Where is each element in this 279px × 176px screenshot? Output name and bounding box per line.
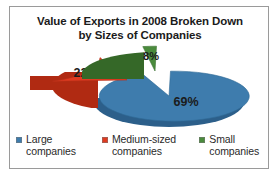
legend-label-small-line-2: companies [209,145,259,157]
legend-label-medium-sized-companies: Medium-sized companies [112,133,176,157]
legend-label-large-line-2: companies [26,145,76,157]
legend-item-large-companies[interactable]: Large companies [16,133,96,157]
pie-chart-plot-area: 69% 22% 8% [10,40,269,132]
legend-swatch-medium-icon [102,137,108,143]
chart-card: Value of Exports in 2008 Broken Down by … [9,6,269,169]
pie-slice-large-value-label: 69% [173,95,198,109]
legend-swatch-small-icon [199,137,205,143]
chart-title-line-1: Value of Exports in 2008 Broken Down [10,14,269,28]
legend-swatch-large-icon [16,137,22,143]
pie-slice-small-value-label: 8% [143,50,159,62]
legend-label-small-line-1: Small [209,133,235,145]
chart-legend: Large companies Medium-sized companies S… [10,133,269,169]
legend-label-large-line-1: Large [26,133,52,145]
legend-item-small-companies[interactable]: Small companies [199,133,264,157]
legend-label-small-companies: Small companies [209,133,259,157]
legend-item-medium-sized-companies[interactable]: Medium-sized companies [102,133,193,157]
legend-label-medium-line-1: Medium-sized [112,133,176,145]
legend-label-large-companies: Large companies [26,133,76,157]
chart-title: Value of Exports in 2008 Broken Down by … [10,14,269,42]
legend-label-medium-line-2: companies [112,145,176,157]
